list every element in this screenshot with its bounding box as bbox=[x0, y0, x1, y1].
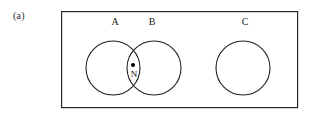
venn-diagram-canvas bbox=[0, 0, 312, 121]
set-circle-b bbox=[127, 41, 181, 95]
panel-label: (a) bbox=[13, 10, 25, 22]
set-circle-c bbox=[216, 41, 270, 95]
set-label-c: C bbox=[242, 16, 249, 27]
set-label-a: A bbox=[111, 16, 118, 27]
venn-diagram-figure: (a) A B C N bbox=[0, 0, 312, 121]
point-n-marker bbox=[131, 63, 135, 67]
set-circle-a bbox=[86, 41, 140, 95]
set-label-b: B bbox=[149, 16, 156, 27]
point-label-n: N bbox=[131, 69, 138, 79]
